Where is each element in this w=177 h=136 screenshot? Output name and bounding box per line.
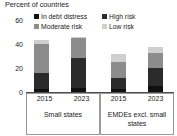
- legend-swatch-high-risk: [102, 14, 107, 19]
- chart-title: Percent of countries: [5, 1, 69, 9]
- bar-segment-moderate-risk: [111, 62, 126, 78]
- x-label-small-2023: 2023: [63, 95, 100, 103]
- bar-segment-moderate-risk: [71, 38, 86, 58]
- x-label-emdes-2023: 2023: [137, 95, 174, 103]
- bar-segment-high-risk: [71, 58, 86, 88]
- bar-small-states-2023: [71, 37, 86, 92]
- x-label-small-2015: 2015: [26, 95, 63, 103]
- legend-item-in-debt-distress: In debt distress: [34, 13, 102, 20]
- bar-segment-low-risk: [148, 47, 163, 54]
- bar-segment-high-risk: [111, 78, 126, 89]
- group-label-emdes: EMDEs excl. small states: [100, 111, 174, 128]
- legend-label-high-risk: High risk: [109, 13, 135, 20]
- bar-emdes-2023: [148, 47, 163, 92]
- legend-swatch-in-debt-distress: [34, 14, 39, 19]
- y-tick-20: 20: [15, 65, 23, 72]
- bar-small-states-2015: [34, 40, 49, 92]
- group-label-emdes-line1: EMDEs excl. small: [108, 111, 166, 118]
- bar-emdes-2015: [111, 54, 126, 92]
- y-tick-0: 0: [19, 89, 23, 96]
- chart-figure: Percent of countries In debt distress Hi…: [0, 0, 177, 136]
- bar-segment-moderate-risk: [148, 53, 163, 67]
- plot-area: 60 40 20 0: [26, 20, 174, 92]
- bar-segment-high-risk: [34, 73, 49, 89]
- y-tick-60: 60: [15, 17, 23, 24]
- x-label-emdes-2015: 2015: [100, 95, 137, 103]
- legend-label-in-debt-distress: In debt distress: [41, 13, 87, 20]
- group-label-emdes-line2: states: [128, 120, 147, 127]
- legend-item-high-risk: High risk: [102, 13, 172, 20]
- y-tick-40: 40: [15, 41, 23, 48]
- bar-segment-low-risk: [111, 54, 126, 62]
- group-label-small-states: Small states: [26, 111, 100, 120]
- bar-segment-moderate-risk: [34, 44, 49, 73]
- bar-segment-high-risk: [148, 68, 163, 87]
